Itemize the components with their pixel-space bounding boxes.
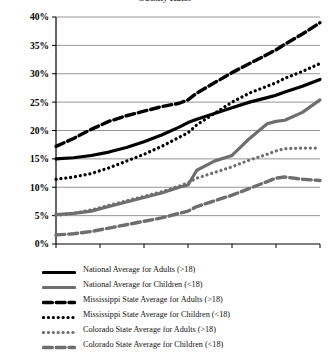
y-tick-label: 10%	[30, 183, 49, 193]
legend-label: Mississippi State Average for Children (…	[83, 310, 230, 319]
series-line-4	[56, 148, 320, 216]
y-tick-label: 25%	[30, 98, 49, 108]
legend-swatch-icon	[42, 339, 76, 350]
plot-area: 0%5%10%15%20%25%30%35%40% 19801985199019…	[0, 0, 329, 250]
series-line-0	[56, 79, 320, 158]
data-series-group	[56, 23, 320, 235]
legend-item[interactable]: National Average for Adults (>18)	[0, 262, 329, 277]
legend-item[interactable]: Colorado State Average for Adults (>18)	[0, 322, 329, 337]
legend-swatch-icon	[42, 264, 76, 275]
y-tick-label: 5%	[35, 211, 49, 221]
y-tick-label: 0%	[35, 239, 49, 249]
y-axis-tick-labels: 0%5%10%15%20%25%30%35%40%	[30, 12, 49, 249]
chart-legend: National Average for Adults (>18)Nationa…	[0, 262, 329, 358]
legend-label: Colorado State Average for Adults (>18)	[83, 325, 216, 334]
legend-swatch-icon	[42, 294, 76, 305]
legend-label: Colorado State Average for Children (<18…	[83, 340, 223, 349]
legend-item[interactable]: Mississippi State Average for Adults (>1…	[0, 292, 329, 307]
plot-svg: 0%5%10%15%20%25%30%35%40% 19801985199019…	[0, 0, 329, 250]
y-tick-label: 35%	[30, 41, 49, 51]
y-tick-label: 30%	[30, 69, 49, 79]
series-line-1	[56, 100, 320, 215]
legend-label: Mississippi State Average for Adults (>1…	[83, 295, 223, 304]
x-axis-tick-labels: 1980198519901995200020052010	[47, 244, 329, 250]
y-tick-label: 40%	[30, 12, 49, 22]
legend-item[interactable]: Mississippi State Average for Children (…	[0, 307, 329, 322]
legend-swatch-icon	[42, 324, 76, 335]
legend-swatch-icon	[42, 309, 76, 320]
obesity-rates-chart: Obesity Rates 0%5%10%15%20%25%30%35%40% …	[0, 0, 329, 358]
legend-swatch-icon	[42, 279, 76, 290]
series-line-2	[56, 23, 320, 147]
legend-item[interactable]: National Average for Children (<18)	[0, 277, 329, 292]
y-tick-label: 15%	[30, 154, 49, 164]
legend-item[interactable]: Colorado State Average for Children (<18…	[0, 337, 329, 352]
y-tick-label: 20%	[30, 126, 49, 136]
legend-label: National Average for Children (<18)	[83, 280, 203, 289]
legend-label: National Average for Adults (>18)	[83, 265, 195, 274]
